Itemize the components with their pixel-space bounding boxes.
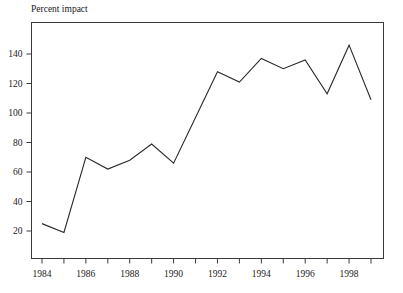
x-tick-label-1990: 1990 (164, 269, 183, 279)
x-tick-label-1986: 1986 (76, 269, 95, 279)
x-tick-label-1988: 1988 (120, 269, 139, 279)
data-series-group (42, 45, 371, 232)
x-tick-label-1984: 1984 (33, 269, 52, 279)
x-axis-tick-labels: 19841986198819901992199419961998 (33, 269, 359, 279)
y-tick-label-60: 60 (13, 167, 23, 177)
x-tick-label-1996: 1996 (296, 269, 315, 279)
y-tick-label-120: 120 (8, 79, 23, 89)
y-tick-label-100: 100 (8, 108, 23, 118)
y-axis-tick-labels: 20406080100120140 (8, 49, 23, 236)
x-axis-ticks (42, 259, 371, 264)
y-tick-label-20: 20 (13, 226, 23, 236)
y-tick-label-80: 80 (13, 138, 23, 148)
line-chart: 20406080100120140 1984198619881990199219… (0, 0, 403, 293)
figure-container: Percent impact 20406080100120140 1984198… (0, 0, 403, 293)
x-tick-label-1998: 1998 (340, 269, 359, 279)
y-tick-label-40: 40 (13, 197, 23, 207)
y-tick-label-140: 140 (8, 49, 23, 59)
plot-frame (32, 23, 384, 259)
y-axis-ticks (27, 54, 32, 231)
x-tick-label-1994: 1994 (252, 269, 271, 279)
x-tick-label-1992: 1992 (208, 269, 227, 279)
series-line-percent-impact (42, 45, 371, 232)
